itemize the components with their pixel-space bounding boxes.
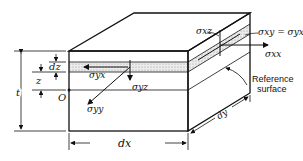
label-dz: dz <box>49 61 61 72</box>
front-stress-arrows <box>84 60 130 104</box>
label-reference: Reference <box>252 74 294 84</box>
label-sigma-xz: σxz <box>196 26 212 36</box>
label-surface-alt: surface <box>257 84 287 94</box>
reference-leader <box>226 68 247 85</box>
label-sigma-yx: σyx <box>89 70 105 80</box>
label-sigma-xy-eq: σxy = σyx <box>258 27 303 37</box>
label-sigma-yz: σyz <box>132 82 148 92</box>
label-t: t <box>16 87 21 98</box>
label-dx: dx <box>118 137 132 150</box>
label-z: z <box>35 75 42 86</box>
label-sigma-yy: σyy <box>87 104 104 114</box>
origin-point <box>68 89 71 92</box>
label-origin: O <box>58 92 66 103</box>
label-sigma-xx: σxx <box>265 49 281 59</box>
label-dy: dy <box>215 107 230 122</box>
plate-element-diagram: dz z t O σyx σyz σyy σxz σxy = σyx σxx R… <box>0 0 303 161</box>
